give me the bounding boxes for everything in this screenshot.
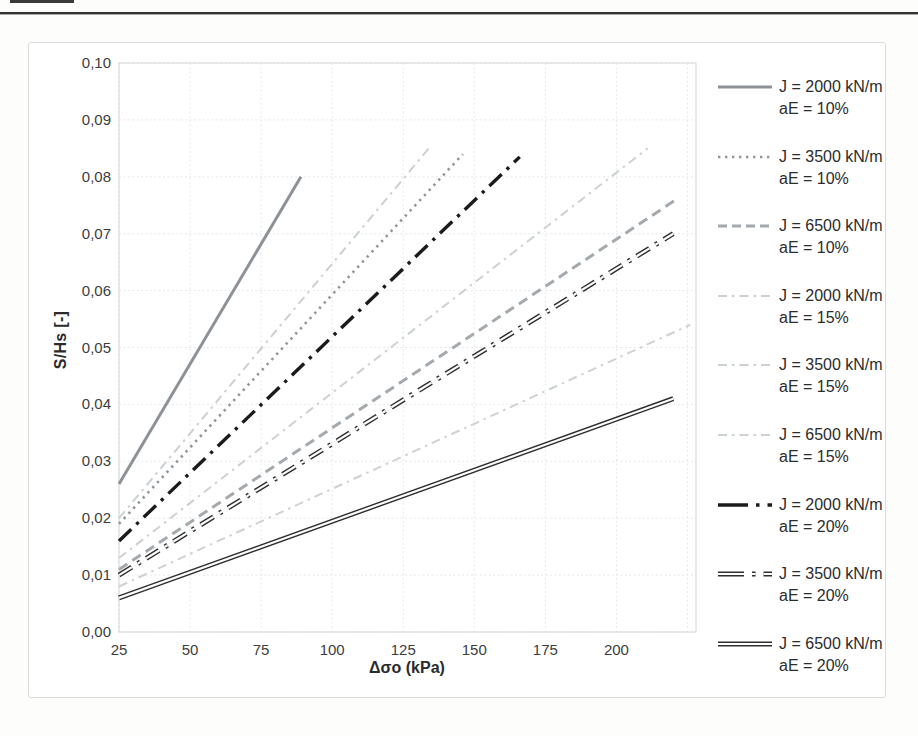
legend-line-sample [717,355,775,375]
legend-label-stiffness: J = 2000 kN/m [779,496,883,514]
x-tick-label: 200 [594,641,638,658]
series-line-J2000-aE15 [119,148,429,518]
y-tick-label: 0,06 [67,282,111,299]
legend-line-sample [717,147,775,167]
legend-item-J2000-aE20: J = 2000 kN/maE = 20% [717,495,885,536]
x-tick-label: 125 [381,641,425,658]
legend-label-stiffness: J = 3500 kN/m [779,148,883,166]
series-line-core-J6500-aE20 [119,399,673,598]
legend-line-sample [717,216,775,236]
legend-line-sample [717,564,775,584]
y-tick-label: 0,05 [67,339,111,356]
y-tick-label: 0,04 [67,395,111,412]
y-tick-label: 0,01 [67,566,111,583]
y-tick-label: 0,09 [67,111,111,128]
series-line-J6500-aE10 [119,200,676,570]
legend-item-J6500-aE10: J = 6500 kN/maE = 10% [717,216,885,257]
series-line-J3500-aE15 [119,148,648,558]
chart-legend: J = 2000 kN/maE = 10%J = 3500 kN/maE = 1… [717,43,885,699]
x-tick-label: 50 [168,641,212,658]
legend-label-stiffness: J = 3500 kN/m [779,565,883,583]
legend-line-sample [717,634,775,654]
page-edge-mark [10,0,74,3]
legend-line-sample [717,495,775,515]
legend-item-J3500-aE15: J = 3500 kN/maE = 15% [717,355,885,396]
legend-label-coverage: aE = 20% [779,587,885,605]
legend-label-stiffness: J = 6500 kN/m [779,635,883,653]
x-tick-label: 25 [97,641,141,658]
legend-label-coverage: aE = 10% [779,170,885,188]
legend-label-coverage: aE = 20% [779,657,885,675]
legend-label-coverage: aE = 15% [779,448,885,466]
legend-label-coverage: aE = 20% [779,518,885,536]
legend-label-stiffness: J = 6500 kN/m [779,426,883,444]
y-tick-label: 0,08 [67,168,111,185]
x-tick-label: 100 [310,641,354,658]
legend-label-coverage: aE = 10% [779,239,885,257]
legend-label-stiffness: J = 2000 kN/m [779,287,883,305]
legend-line-sample [717,286,775,306]
legend-line-sample [717,77,775,97]
scanned-figure-page: S/Hs [-] Δσo (kPa) 0,000,010,020,030,040… [0,0,918,736]
legend-line-sample [717,425,775,445]
legend-label-stiffness: J = 2000 kN/m [779,78,883,96]
page-rule [0,12,918,14]
legend-item-J2000-aE15: J = 2000 kN/maE = 15% [717,286,885,327]
series-line-J2000-aE20 [119,157,520,541]
legend-item-J3500-aE10: J = 3500 kN/maE = 10% [717,147,885,188]
y-tick-label: 0,07 [67,225,111,242]
legend-label-coverage: aE = 10% [779,100,885,118]
legend-label-stiffness: J = 6500 kN/m [779,217,883,235]
x-tick-label: 75 [239,641,283,658]
legend-item-J2000-aE10: J = 2000 kN/maE = 10% [717,77,885,118]
chart-container: S/Hs [-] Δσo (kPa) 0,000,010,020,030,040… [28,42,886,698]
y-tick-label: 0,03 [67,452,111,469]
y-tick-label: 0,10 [67,54,111,71]
x-tick-label: 150 [452,641,496,658]
y-tick-label: 0,02 [67,509,111,526]
y-tick-label: 0,00 [67,623,111,640]
legend-label-coverage: aE = 15% [779,309,885,327]
plot-border [119,63,696,632]
series-line-J6500-aE15 [119,325,690,587]
x-tick-label: 175 [523,641,567,658]
legend-item-J3500-aE20: J = 3500 kN/maE = 20% [717,564,885,605]
legend-item-J6500-aE15: J = 6500 kN/maE = 15% [717,425,885,466]
legend-label-coverage: aE = 15% [779,378,885,396]
legend-item-J6500-aE20: J = 6500 kN/maE = 20% [717,634,885,675]
x-axis-title: Δσo (kPa) [317,659,497,677]
legend-label-stiffness: J = 3500 kN/m [779,356,883,374]
